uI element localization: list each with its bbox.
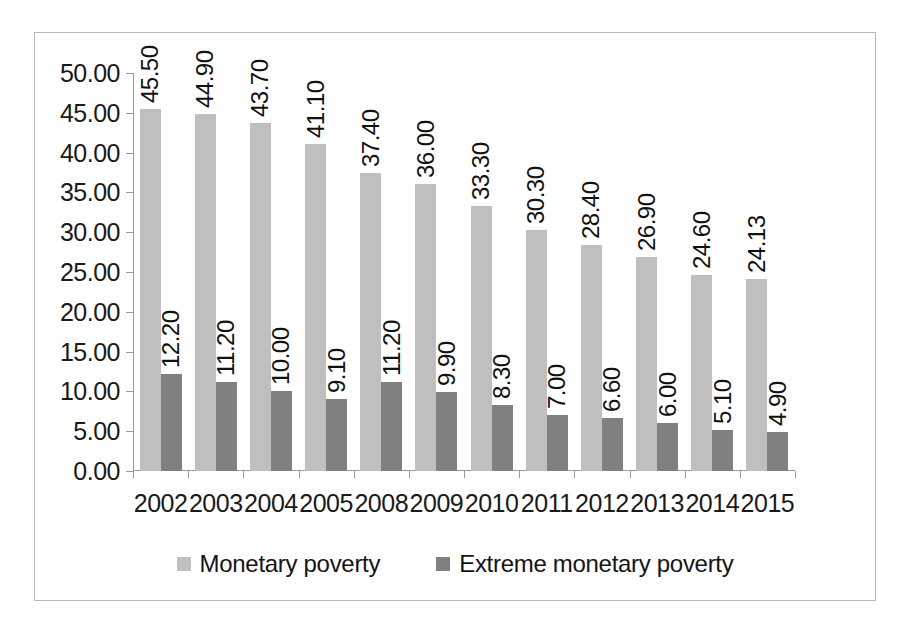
- y-axis-tick-label: 30.00: [60, 218, 120, 247]
- y-axis-line: [133, 73, 134, 471]
- y-axis-tick-label: 25.00: [60, 258, 120, 287]
- bar-value-label: 26.90: [633, 193, 661, 251]
- y-axis-tick-label: 20.00: [60, 297, 120, 326]
- bar-value-label: 5.10: [709, 380, 737, 425]
- y-axis-tick: [126, 352, 133, 353]
- bar-2004-monetary: 43.70: [250, 123, 271, 471]
- x-axis-tick: [133, 471, 134, 478]
- bar-2002-extreme: 12.20: [161, 374, 182, 471]
- y-axis-tick: [126, 153, 133, 154]
- x-axis-tick-label: 2002: [134, 489, 188, 518]
- bar-group: 36.009.90: [415, 73, 457, 471]
- bar-value-label: 28.40: [577, 181, 605, 239]
- x-axis-tick-label: 2015: [741, 489, 795, 518]
- x-axis-tick: [299, 471, 300, 478]
- bar-2010-extreme: 8.30: [492, 405, 513, 471]
- chart-frame: 0.005.0010.0015.0020.0025.0030.0035.0040…: [34, 32, 876, 601]
- y-axis-tick: [126, 113, 133, 114]
- bar-value-label: 8.30: [488, 354, 516, 399]
- bar-2012-monetary: 28.40: [581, 245, 602, 471]
- y-axis-tick-label: 45.00: [60, 98, 120, 127]
- bar-2013-extreme: 6.00: [657, 423, 678, 471]
- x-axis-tick-label: 2014: [685, 489, 739, 518]
- bar-value-label: 11.20: [378, 320, 406, 376]
- bar-value-label: 9.10: [323, 348, 351, 393]
- y-axis-tick: [126, 232, 133, 233]
- bar-2003-extreme: 11.20: [216, 382, 237, 471]
- bar-group: 37.4011.20: [360, 73, 402, 471]
- x-axis-tick: [630, 471, 631, 478]
- y-axis-tick-label: 15.00: [60, 337, 120, 366]
- bar-2009-extreme: 9.90: [436, 392, 457, 471]
- bar-group: 24.134.90: [746, 73, 788, 471]
- x-axis-tick-label: 2013: [630, 489, 684, 518]
- x-axis-tick-label: 2009: [410, 489, 464, 518]
- legend-entry[interactable]: Monetary poverty: [177, 550, 381, 578]
- legend-entry[interactable]: Extreme monetary poverty: [436, 550, 733, 578]
- x-axis-tick: [409, 471, 410, 478]
- x-axis-tick-label: 2004: [244, 489, 298, 518]
- bar-value-label: 24.13: [743, 215, 771, 273]
- y-axis-tick: [126, 471, 133, 472]
- bar-2011-monetary: 30.30: [526, 230, 547, 471]
- y-axis-tick-label: 0.00: [73, 457, 120, 486]
- x-axis-tick-label: 2005: [299, 489, 353, 518]
- x-axis-tick: [354, 471, 355, 478]
- bar-group: 30.307.00: [526, 73, 568, 471]
- bar-value-label: 44.90: [191, 50, 219, 108]
- bar-value-label: 11.20: [212, 320, 240, 376]
- bar-2002-monetary: 45.50: [140, 109, 161, 471]
- bar-2013-monetary: 26.90: [636, 257, 657, 471]
- bar-group: 24.605.10: [691, 73, 733, 471]
- y-axis-tick-label: 5.00: [73, 417, 120, 446]
- bar-value-label: 37.40: [357, 110, 385, 168]
- y-axis-tick: [126, 272, 133, 273]
- y-axis-tick-label: 40.00: [60, 138, 120, 167]
- legend-label: Monetary poverty: [200, 550, 381, 578]
- x-axis-tick-label: 2011: [521, 489, 573, 518]
- bar-value-label: 7.00: [543, 365, 571, 410]
- plot-area: 0.005.0010.0015.0020.0025.0030.0035.0040…: [133, 73, 795, 471]
- legend-swatch-icon: [177, 557, 191, 571]
- x-axis-tick-label: 2008: [354, 489, 408, 518]
- x-axis-tick: [243, 471, 244, 478]
- y-axis-tick: [126, 312, 133, 313]
- x-axis-tick-label: 2010: [465, 489, 519, 518]
- bar-value-label: 24.60: [688, 212, 716, 270]
- y-axis-tick: [126, 431, 133, 432]
- y-axis-tick: [126, 73, 133, 74]
- bar-value-label: 33.30: [467, 142, 495, 200]
- x-axis-tick: [685, 471, 686, 478]
- x-axis-tick: [519, 471, 520, 478]
- bar-2014-extreme: 5.10: [712, 430, 733, 471]
- y-axis-tick: [126, 391, 133, 392]
- x-axis-tick: [188, 471, 189, 478]
- x-axis-tick: [795, 471, 796, 478]
- bar-2003-monetary: 44.90: [195, 114, 216, 471]
- y-axis-tick-label: 35.00: [60, 178, 120, 207]
- bar-group: 44.9011.20: [195, 73, 237, 471]
- bar-value-label: 10.00: [267, 328, 295, 386]
- bar-2014-monetary: 24.60: [691, 275, 712, 471]
- bar-group: 28.406.60: [581, 73, 623, 471]
- bar-group: 43.7010.00: [250, 73, 292, 471]
- y-axis-tick-label: 50.00: [60, 59, 120, 88]
- legend-swatch-icon: [436, 557, 450, 571]
- bar-value-label: 36.00: [412, 121, 440, 179]
- bar-group: 45.5012.20: [140, 73, 182, 471]
- x-axis-tick: [574, 471, 575, 478]
- bar-group: 41.109.10: [305, 73, 347, 471]
- bar-value-label: 12.20: [157, 310, 185, 368]
- bar-value-label: 43.70: [246, 60, 274, 118]
- bar-group: 33.308.30: [471, 73, 513, 471]
- bar-value-label: 45.50: [136, 45, 164, 103]
- bar-value-label: 4.90: [764, 381, 792, 426]
- y-axis-tick-label: 10.00: [60, 377, 120, 406]
- bar-2010-monetary: 33.30: [471, 206, 492, 471]
- bar-value-label: 6.00: [654, 373, 682, 418]
- x-axis-tick: [464, 471, 465, 478]
- bar-value-label: 41.10: [302, 80, 330, 138]
- bar-value-label: 6.60: [598, 368, 626, 413]
- chart-legend: Monetary povertyExtreme monetary poverty: [35, 550, 875, 578]
- bar-2015-extreme: 4.90: [767, 432, 788, 471]
